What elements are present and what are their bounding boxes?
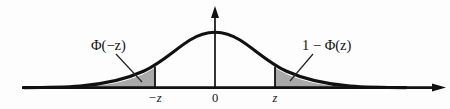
tick-label-zero: 0 (212, 91, 218, 105)
normal-distribution-figure: Φ(−z) 1 − Φ(z) −z 0 z (0, 0, 450, 109)
normal-curve-plot: Φ(−z) 1 − Φ(z) −z 0 z (0, 0, 450, 109)
tick-label-negative-z: −z (148, 91, 161, 105)
x-axis-arrowhead-icon (432, 84, 446, 92)
left-tail-label: Φ(−z) (91, 37, 126, 54)
y-axis-arrowhead-icon (211, 6, 219, 18)
tick-label-positive-z: z (272, 91, 278, 105)
right-tail-label: 1 − Φ(z) (302, 37, 352, 54)
